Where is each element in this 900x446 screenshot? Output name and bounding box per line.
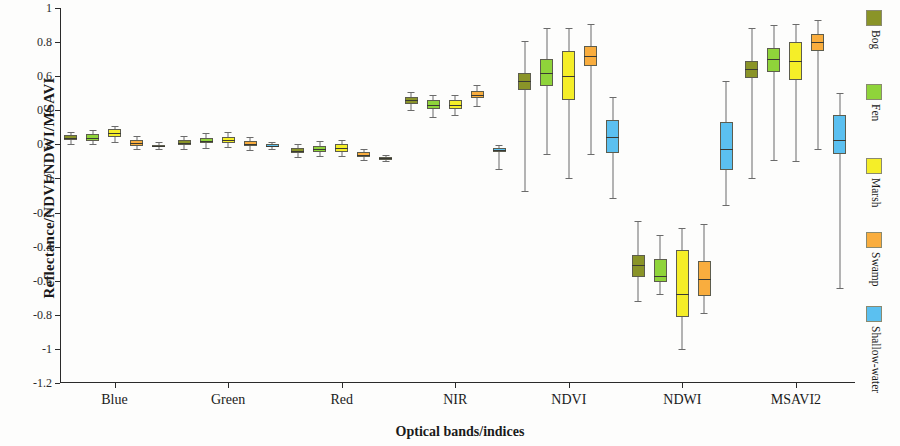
median-line [379,158,392,159]
box-plot-box [833,93,846,287]
whisker-cap-min [247,150,254,151]
y-tick-mark [55,383,60,384]
box-plot-box [222,132,235,146]
median-line [632,265,645,266]
whisker-cap-min [521,191,528,192]
whisker-line [546,28,547,153]
x-tick-mark [569,383,570,388]
whisker-cap-max [657,235,664,236]
whisker-cap-min [294,157,301,158]
legend-item[interactable]: Bog [866,10,900,84]
whisker-cap-max [723,81,730,82]
box-plot-box [200,133,213,147]
whisker-cap-max [635,221,642,222]
box-plot-box [698,224,711,313]
whisker-cap-max [155,142,162,143]
whisker-cap-min [316,156,323,157]
y-tick-label: 0.4 [18,103,52,118]
x-tick-label: NDVI [509,392,629,408]
whisker-cap-max [587,24,594,25]
y-tick-mark [55,349,60,350]
box-iqr-rect [720,122,733,170]
whisker-cap-max [338,140,345,141]
legend-color-swatch [866,232,882,248]
box-plot-box [152,142,165,149]
median-line [222,140,235,141]
median-line [130,143,143,144]
whisker-cap-min [496,169,503,170]
y-tick-mark [55,315,60,316]
whisker-cap-min [565,178,572,179]
whisker-cap-min [430,117,437,118]
box-plot-box [291,144,304,158]
legend-item[interactable]: Shallow-water [866,306,900,380]
legend-label: Fen [868,104,882,121]
whisker-cap-min [382,161,389,162]
median-line [471,95,484,96]
whisker-cap-min [657,294,664,295]
median-line [244,144,257,145]
whisker-cap-min [67,144,74,145]
whisker-cap-max [701,224,708,225]
y-tick-label: 0.8 [18,35,52,50]
x-tick-label: NDWI [622,392,742,408]
box-plot-box [449,95,462,114]
median-line [745,69,758,70]
whisker-line [590,24,591,154]
whisker-cap-min [133,149,140,150]
legend-color-swatch [866,84,882,100]
box-plot-box [767,25,780,160]
whisker-cap-max [792,24,799,25]
x-tick-mark [455,383,456,388]
whisker-cap-max [452,95,459,96]
box-plot-box [745,28,758,178]
box-plot-box [108,126,121,142]
legend-item[interactable]: Fen [866,84,900,158]
y-tick-mark [55,178,60,179]
box-plot-box [562,28,575,179]
whisker-cap-min [452,115,459,116]
whisker-cap-min [225,147,232,148]
x-tick-label: Red [282,392,402,408]
x-tick-mark [682,383,683,388]
whisker-cap-min [543,154,550,155]
whisker-cap-min [679,349,686,350]
median-line [767,59,780,60]
whisker-cap-max [360,149,367,150]
whisker-cap-max [836,93,843,94]
box-plot-box [720,81,733,205]
whisker-cap-max [89,130,96,131]
legend-item[interactable]: Marsh [866,158,900,232]
median-line [200,141,213,142]
plot-area [60,8,855,383]
whisker-cap-max [316,141,323,142]
boxplot-figure: Reflectance/NDVI/NDWI/MSAVI 10.80.60.40.… [0,0,900,446]
y-tick-mark [55,8,60,9]
whisker-cap-max [679,228,686,229]
x-tick-mark [796,383,797,388]
box-plot-box [244,137,257,151]
legend-item[interactable]: Swamp [866,232,900,306]
box-plot-box [811,20,824,149]
whisker-cap-max [770,25,777,26]
median-line [518,81,531,82]
box-plot-box [632,221,645,301]
box-plot-box [789,24,802,160]
whisker-cap-max [294,144,301,145]
box-plot-box [676,228,689,349]
box-iqr-rect [833,115,846,153]
x-tick-label: Green [168,392,288,408]
legend-color-swatch [866,10,882,26]
whisker-cap-max [430,95,437,96]
whisker-cap-min [360,160,367,161]
whisker-cap-min [701,313,708,314]
box-plot-box [405,92,418,110]
x-tick-mark [342,383,343,388]
whisker-line [773,25,774,160]
box-plot-box [606,97,619,198]
median-line [584,56,597,57]
legend-label: Marsh [868,178,882,207]
whisker-cap-max [203,133,210,134]
whisker-cap-max [225,132,232,133]
legend-label: Shallow-water [868,326,882,393]
